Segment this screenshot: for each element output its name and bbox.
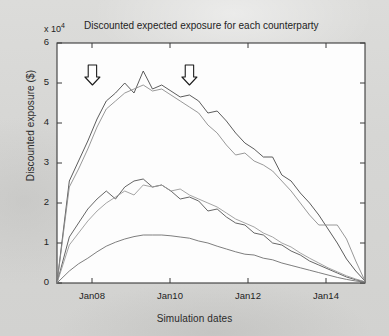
exposure-chart: x 104 Discounted expected exposure for e… (0, 0, 389, 336)
plot-frame (57, 43, 365, 283)
plot-area (0, 0, 389, 336)
